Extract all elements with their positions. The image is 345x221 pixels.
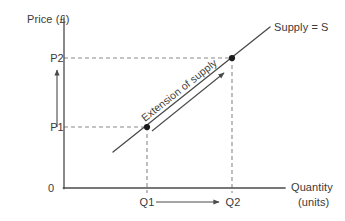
- equilibrium-point-2: [229, 55, 235, 61]
- origin-label: 0: [48, 182, 54, 194]
- x-axis-label: Quantity: [291, 181, 333, 193]
- tick-label-q1: Q1: [140, 196, 155, 208]
- tick-label-p2: P2: [50, 52, 64, 64]
- tick-label-q2: Q2: [226, 196, 241, 208]
- diagram-canvas: Price (£) Quantity (units) 0 P2 P1 Q1 Q2…: [0, 0, 345, 221]
- supply-curve: [113, 27, 270, 152]
- supply-curve-diagram: Price (£) Quantity (units) 0 P2 P1 Q1 Q2…: [0, 0, 345, 221]
- x-axis-sublabel: (units): [298, 196, 329, 208]
- y-axis-label: Price (£): [27, 13, 69, 25]
- supply-curve-line: [113, 27, 270, 152]
- annotation-arrows: [57, 70, 224, 202]
- supply-curve-label: Supply = S: [274, 21, 329, 33]
- extension-of-supply-label: Extension of supply: [139, 56, 220, 124]
- equilibrium-point-1: [144, 124, 150, 130]
- tick-label-p1: P1: [50, 121, 64, 133]
